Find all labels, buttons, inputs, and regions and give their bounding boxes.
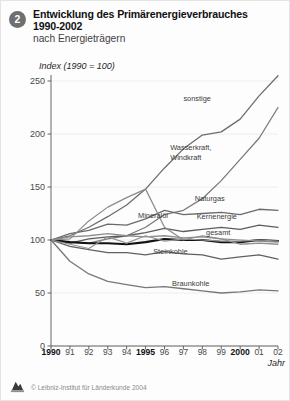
figure-footer: © Leibniz-Institut für Länderkunde 2004 xyxy=(1,370,290,400)
figure-frame: 2 Entwicklung des Primärenergieverbrauch… xyxy=(0,0,290,401)
y-axis-tick-label: 250 xyxy=(19,76,45,86)
subtitle: nach Energieträgern xyxy=(33,33,285,45)
y-axis-tick-label: 50 xyxy=(19,288,45,298)
x-axis-tick-label: 02 xyxy=(265,347,290,357)
series-annotation: gesamt xyxy=(206,229,230,238)
y-axis-tick-label: 200 xyxy=(19,129,45,139)
chart-container: Index (1990 = 100) 050100150200250 19909… xyxy=(1,57,290,369)
series-annotation: Naturgas xyxy=(195,195,225,204)
series-annotation: sonstige xyxy=(183,95,211,104)
series-annotation: Wasserkraft, xyxy=(170,144,211,153)
title-line-2: 1990-2002 xyxy=(33,21,285,33)
figure-number-badge: 2 xyxy=(9,11,26,28)
copyright-text: © Leibniz-Institut für Länderkunde 2004 xyxy=(31,384,147,391)
series-annotation: Mineralöl xyxy=(138,212,168,221)
series-lines xyxy=(51,76,278,293)
series-annotation: Kernenergie xyxy=(197,213,237,222)
series-line-wasserkraft-windkraft xyxy=(51,108,278,244)
series-annotation: Steinkohle xyxy=(153,248,188,257)
figure-header: 2 Entwicklung des Primärenergieverbrauch… xyxy=(1,1,290,57)
page-title: Entwicklung des Primärenergieverbrauches… xyxy=(33,9,285,45)
y-axis-tick-label: 150 xyxy=(19,182,45,192)
title-line-1: Entwicklung des Primärenergieverbrauches xyxy=(33,9,285,21)
y-axis-tick-label: 100 xyxy=(19,235,45,245)
series-annotation: Windkraft xyxy=(170,154,201,163)
institute-logo-icon xyxy=(10,379,25,394)
x-axis-label: Jahr xyxy=(267,358,285,368)
series-annotation: Braunkohle xyxy=(172,280,209,289)
